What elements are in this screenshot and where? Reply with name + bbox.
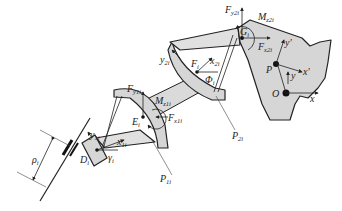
- mechanism-diagram: Fy2i Mz2i Gi Fx2i y' x' P y O x y2i Fi x…: [0, 0, 342, 211]
- label-y: y: [290, 70, 296, 81]
- label-Fy2i: Fy2i: [224, 4, 239, 16]
- label-x2i: x2i: [209, 55, 220, 67]
- label-O: O: [272, 88, 279, 99]
- label-Fy1i: Fy1i: [126, 83, 141, 95]
- label-x-prime: x': [302, 66, 310, 77]
- label-P2i: P2i: [231, 130, 243, 142]
- end-effector-plate: [238, 20, 331, 120]
- label-Di: Di: [79, 154, 89, 166]
- label-Phi: Φi: [205, 74, 215, 86]
- label-gamma: γi: [108, 152, 114, 164]
- label-y1i: y1i: [89, 129, 100, 141]
- label-y-prime: y': [284, 37, 292, 48]
- label-y2i: y2i: [159, 54, 170, 66]
- label-Mz2i: Mz2i: [257, 11, 274, 23]
- label-P1i: P1i: [159, 173, 171, 185]
- label-Ei: Ei: [131, 116, 140, 128]
- rho-dimension: [17, 130, 70, 187]
- label-Fx1i: Fx1i: [167, 112, 182, 124]
- label-Fi: Fi: [190, 58, 199, 70]
- label-x: x: [309, 93, 315, 104]
- label-rho: ρi: [31, 154, 39, 166]
- label-P: P: [265, 64, 272, 75]
